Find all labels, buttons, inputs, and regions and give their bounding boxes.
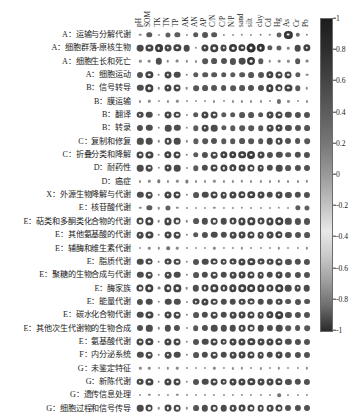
matrix-cell xyxy=(136,228,144,241)
correlation-dot xyxy=(220,405,227,412)
correlation-dot xyxy=(304,218,310,224)
matrix-cell xyxy=(275,81,283,94)
matrix-cell xyxy=(219,95,227,108)
matrix-cell xyxy=(256,388,264,401)
correlation-dot xyxy=(232,100,234,102)
correlation-dot xyxy=(139,33,142,36)
matrix-row xyxy=(136,95,312,108)
correlation-dot xyxy=(146,111,153,118)
matrix-cell xyxy=(136,81,144,94)
correlation-dot xyxy=(285,352,291,358)
significance-marker-icon xyxy=(167,287,170,290)
matrix-cell xyxy=(247,201,255,214)
matrix-cell xyxy=(182,95,190,108)
matrix-cell xyxy=(182,362,190,375)
matrix-cell xyxy=(145,81,153,94)
column-label: Cd xyxy=(264,18,273,27)
correlation-dot xyxy=(157,207,160,210)
significance-marker-icon xyxy=(259,47,262,50)
matrix-cell xyxy=(192,362,200,375)
matrix-cell xyxy=(173,135,181,148)
correlation-dot xyxy=(193,379,199,385)
matrix-row xyxy=(136,348,312,361)
correlation-dot xyxy=(202,312,208,318)
matrix-cell xyxy=(219,41,227,54)
matrix-cell xyxy=(192,148,200,161)
colorbar-tick-label: -0.2 xyxy=(336,201,348,210)
row-label: A：细胞生长和死亡 xyxy=(0,55,134,68)
matrix-cell xyxy=(229,108,237,121)
matrix-cell xyxy=(293,268,301,281)
matrix-cell xyxy=(256,188,264,201)
matrix-cell xyxy=(201,388,209,401)
matrix-cell xyxy=(275,335,283,348)
correlation-dot xyxy=(285,112,291,118)
correlation-dot xyxy=(276,152,282,158)
significance-marker-icon xyxy=(278,287,281,290)
matrix-cell xyxy=(173,295,181,308)
correlation-dot xyxy=(267,272,274,279)
matrix-cell xyxy=(192,402,200,415)
matrix-cell xyxy=(303,375,311,388)
matrix-cell xyxy=(173,81,181,94)
correlation-dot xyxy=(241,100,243,102)
matrix-row xyxy=(136,335,312,348)
matrix-cell xyxy=(192,121,200,134)
matrix-cell xyxy=(155,308,163,321)
matrix-cell xyxy=(256,402,264,415)
matrix-cell xyxy=(238,201,246,214)
correlation-dot xyxy=(306,34,308,36)
correlation-dot xyxy=(157,407,160,410)
matrix-cell xyxy=(182,161,190,174)
matrix-cell xyxy=(293,375,301,388)
correlation-dot xyxy=(304,272,310,278)
matrix-cell xyxy=(303,28,311,41)
correlation-dot xyxy=(185,354,187,356)
matrix-cell xyxy=(164,121,172,134)
correlation-dot xyxy=(211,232,218,239)
correlation-dot xyxy=(193,352,199,358)
matrix-row xyxy=(136,201,312,214)
matrix-cell xyxy=(266,81,274,94)
correlation-dot xyxy=(285,299,291,305)
correlation-dot xyxy=(158,127,160,129)
matrix-cell xyxy=(201,255,209,268)
correlation-dot xyxy=(157,153,160,156)
matrix-cell xyxy=(136,95,144,108)
matrix-cell xyxy=(229,242,237,255)
correlation-dot xyxy=(278,207,280,209)
matrix-cell xyxy=(284,215,292,228)
matrix-cell xyxy=(266,388,274,401)
matrix-cell xyxy=(210,148,218,161)
matrix-cell xyxy=(164,95,172,108)
matrix-cell xyxy=(303,348,311,361)
correlation-dot xyxy=(221,85,227,91)
correlation-dot xyxy=(137,45,144,52)
correlation-dot xyxy=(185,140,187,142)
matrix-cell xyxy=(182,322,190,335)
matrix-cell xyxy=(182,81,190,94)
correlation-dot xyxy=(204,367,206,369)
matrix-cell xyxy=(256,148,264,161)
matrix-cell xyxy=(293,282,301,295)
matrix-cell xyxy=(275,28,283,41)
correlation-dot xyxy=(139,100,141,102)
correlation-dot xyxy=(195,60,197,62)
correlation-dot xyxy=(137,312,144,319)
matrix-cell xyxy=(275,295,283,308)
matrix-cell xyxy=(182,282,190,295)
matrix-cell xyxy=(164,322,172,335)
matrix-cell xyxy=(229,188,237,201)
row-label: E：其他次生代谢物的生物合成 xyxy=(0,322,134,335)
matrix-cell xyxy=(293,68,301,81)
correlation-dot xyxy=(287,47,290,50)
row-label: A：细胞运动 xyxy=(0,68,134,81)
correlation-dot xyxy=(158,394,160,396)
correlation-dot xyxy=(139,394,141,396)
correlation-dot xyxy=(232,394,234,396)
correlation-dot xyxy=(176,247,179,250)
matrix-cell xyxy=(229,308,237,321)
matrix-cell xyxy=(303,68,311,81)
correlation-dot xyxy=(137,192,143,198)
matrix-cell xyxy=(293,255,301,268)
